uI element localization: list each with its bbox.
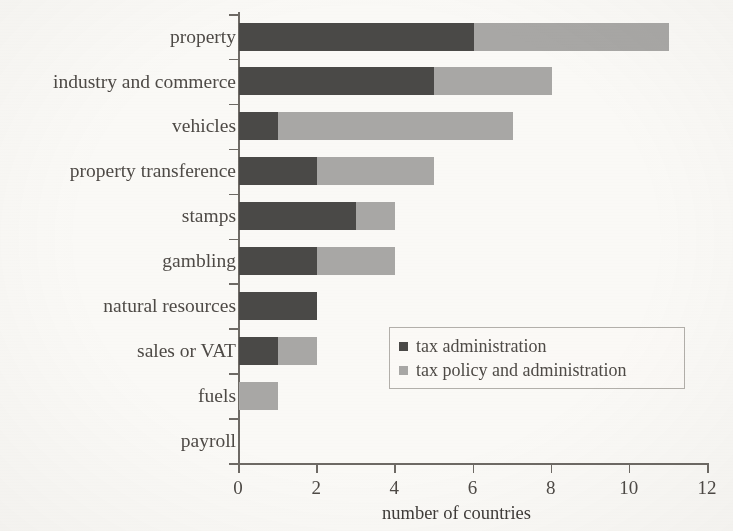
y-axis-tick-mark: [229, 373, 238, 375]
stacked-bar: [239, 337, 317, 365]
y-axis-tick-label: stamps: [0, 206, 236, 226]
y-axis-tick-label: property transference: [0, 161, 236, 181]
legend-label: tax administration: [416, 337, 546, 355]
stacked-bar: [239, 202, 395, 230]
chart-category-row: stamps: [0, 194, 733, 239]
x-axis-tick-label: 2: [296, 477, 336, 499]
y-axis-tick-label: natural resources: [0, 296, 236, 316]
legend-item: tax policy and administration: [399, 358, 676, 382]
y-axis-tick-mark: [229, 328, 238, 330]
x-axis-tick-label: 12: [687, 477, 727, 499]
stacked-bar: [239, 157, 434, 185]
x-axis-tick-mark: [551, 463, 553, 473]
x-axis-tick-label: 0: [218, 477, 258, 499]
y-axis-tick-mark: [229, 418, 238, 420]
y-axis-tick-mark: [229, 14, 238, 16]
x-axis-tick-mark: [473, 463, 475, 473]
legend-label: tax policy and administration: [416, 361, 626, 379]
x-axis-tick-label: 4: [374, 477, 414, 499]
y-axis-tick-mark: [229, 283, 238, 285]
chart-category-row: property transference: [0, 149, 733, 194]
bar-segment: [239, 337, 278, 365]
chart-category-rows: propertyindustry and commercevehiclespro…: [0, 14, 733, 463]
x-axis-tick-label: 6: [453, 477, 493, 499]
bar-segment: [239, 247, 317, 275]
chart-category-row: industry and commerce: [0, 59, 733, 104]
stacked-bar: [239, 112, 513, 140]
x-axis-tick-mark: [707, 463, 709, 473]
legend-item: tax administration: [399, 334, 676, 358]
bar-segment: [317, 157, 434, 185]
x-axis-tick-mark: [238, 463, 240, 473]
chart-category-row: payroll: [0, 418, 733, 463]
bar-segment: [239, 382, 278, 410]
bar-segment: [356, 202, 395, 230]
y-axis-tick-label: gambling: [0, 251, 236, 271]
stacked-bar: [239, 67, 552, 95]
y-axis-tick-label: sales or VAT: [0, 341, 236, 361]
bar-segment: [278, 337, 317, 365]
x-axis-tick-label: 8: [531, 477, 571, 499]
y-axis-tick-mark: [229, 194, 238, 196]
bar-segment: [239, 292, 317, 320]
chart-category-row: natural resources: [0, 283, 733, 328]
x-axis-tick-mark: [394, 463, 396, 473]
x-axis-tick-mark: [316, 463, 318, 473]
chart-category-row: vehicles: [0, 104, 733, 149]
chart-category-row: gambling: [0, 239, 733, 284]
y-axis-tick-mark: [229, 149, 238, 151]
y-axis-tick-mark: [229, 104, 238, 106]
bar-segment: [474, 23, 669, 51]
bar-segment: [239, 157, 317, 185]
chart-category-row: property: [0, 14, 733, 59]
stacked-bar: [239, 247, 395, 275]
bar-segment: [278, 112, 513, 140]
bar-chart: propertyindustry and commercevehiclespro…: [0, 0, 733, 531]
bar-segment: [239, 202, 356, 230]
x-axis-tick-label: 10: [609, 477, 649, 499]
legend-swatch-icon: [399, 342, 408, 351]
y-axis-tick-label: payroll: [0, 431, 236, 451]
bar-segment: [239, 67, 434, 95]
y-axis-tick-mark: [229, 239, 238, 241]
stacked-bar: [239, 292, 317, 320]
legend-swatch-icon: [399, 366, 408, 375]
stacked-bar: [239, 382, 278, 410]
y-axis-tick-label: vehicles: [0, 116, 236, 136]
x-axis-tick-mark: [629, 463, 631, 473]
bar-segment: [239, 23, 474, 51]
x-axis-title: number of countries: [0, 503, 733, 524]
y-axis-tick-label: fuels: [0, 386, 236, 406]
y-axis-tick-mark: [229, 59, 238, 61]
y-axis-tick-label: property: [0, 27, 236, 47]
stacked-bar: [239, 23, 669, 51]
bar-segment: [434, 67, 551, 95]
bar-segment: [317, 247, 395, 275]
chart-legend: tax administrationtax policy and adminis…: [389, 327, 685, 389]
y-axis-tick-label: industry and commerce: [0, 72, 236, 92]
bar-segment: [239, 112, 278, 140]
